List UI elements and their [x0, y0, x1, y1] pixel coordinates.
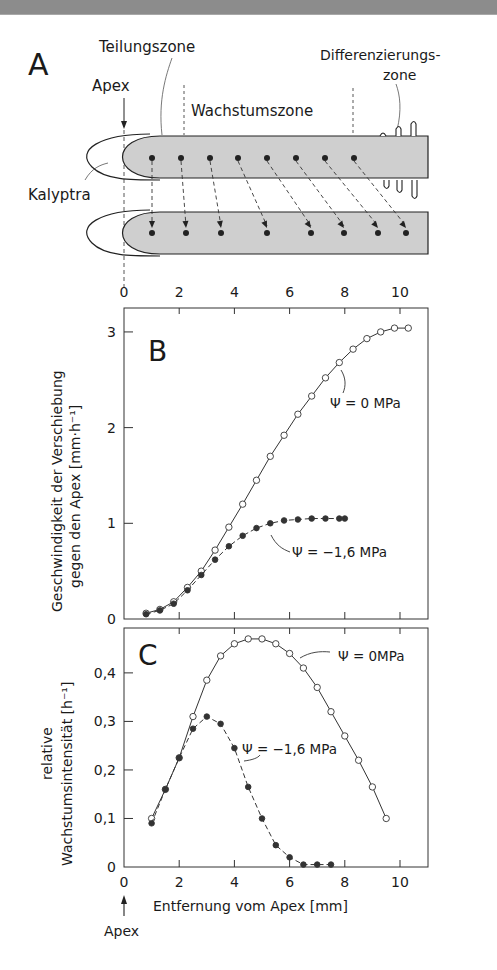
data-point [295, 517, 301, 523]
data-point [171, 601, 177, 607]
panel-a-tick: 8 [340, 284, 349, 300]
data-point [350, 346, 356, 352]
data-point [245, 784, 251, 790]
differentiation-zone-label-2: zone [383, 67, 416, 83]
x-tick-label: 2 [175, 874, 184, 890]
data-point [254, 525, 260, 531]
data-point [267, 453, 273, 459]
data-point [232, 745, 238, 751]
data-point [198, 572, 204, 578]
data-point [204, 677, 210, 683]
differentiation-zone-label-1: Differenzierungs- [320, 47, 440, 63]
y-tick-label: 0 [107, 859, 116, 875]
panel-b-ylabel-1: Geschwindigkeit der Verschiebung [49, 370, 65, 612]
data-point [391, 325, 397, 331]
data-point [281, 518, 287, 524]
panel-a-tick: 4 [230, 284, 239, 300]
panel-a-tick: 2 [175, 284, 184, 300]
panel-c-legend-psi0: Ψ = 0MPa [338, 648, 405, 664]
panel-a-axis: 0246810 [120, 284, 409, 300]
panel-c-ylabel-2: Wachstumsintensität [h⁻¹] [59, 682, 75, 866]
apex-label-top: Apex [92, 77, 130, 95]
y-tick-label: 0,2 [94, 762, 116, 778]
data-point [328, 862, 334, 868]
data-point [364, 335, 370, 341]
data-point [163, 787, 169, 793]
data-point [226, 524, 232, 530]
data-point [259, 636, 265, 642]
panel-b-legend-psi0: Ψ = 0 MPa [330, 395, 401, 411]
panel-b-ylabel-2: gegen den Apex [mm·h⁻¹] [67, 405, 83, 588]
y-tick-label: 0,1 [94, 810, 116, 826]
panel-c: 00,10,20,30,40246810 C Ψ = 0MPa Ψ = −1,6… [39, 628, 428, 890]
data-point [336, 516, 342, 522]
data-point [259, 816, 265, 822]
data-point [226, 543, 232, 549]
data-point [212, 557, 218, 563]
apex-arrow-icon [121, 895, 127, 904]
y-tick-label: 0,4 [94, 665, 116, 681]
panel-a: A Teilungszone Differenzierungs- zone Ap… [28, 38, 440, 300]
data-point [301, 862, 307, 868]
data-point [309, 516, 315, 522]
data-point [267, 521, 273, 527]
data-point [143, 611, 149, 617]
series-line [146, 328, 408, 613]
data-point [204, 714, 210, 720]
data-point [295, 411, 301, 417]
figure: A Teilungszone Differenzierungs- zone Ap… [0, 0, 497, 970]
x-tick-label: 0 [120, 874, 129, 890]
panel-c-label: C [138, 639, 158, 672]
data-point [190, 726, 196, 732]
data-point [383, 815, 389, 821]
panel-a-tick: 0 [120, 284, 129, 300]
division-zone-label: Teilungszone [98, 38, 195, 56]
data-point [157, 608, 163, 614]
panel-a-tick: 10 [391, 284, 409, 300]
data-point [281, 432, 287, 438]
y-tick-label: 2 [107, 420, 116, 436]
data-point [273, 641, 279, 647]
panel-a-label: A [28, 47, 49, 82]
y-tick-label: 0,3 [94, 713, 116, 729]
calyptra-label: Kalyptra [28, 186, 91, 204]
panel-b-legend-psi-16: Ψ = −1,6 MPa [292, 544, 387, 560]
x-axis-title: Entfernung vom Apex [mm] [153, 898, 348, 914]
data-point [300, 665, 306, 671]
x-tick-label: 6 [285, 874, 294, 890]
y-tick-label: 3 [107, 324, 116, 340]
data-point [185, 587, 191, 593]
data-point [342, 516, 348, 522]
data-point [239, 501, 245, 507]
data-point [322, 375, 328, 381]
data-point [336, 359, 342, 365]
y-tick-label: 1 [107, 515, 116, 531]
data-point [212, 547, 218, 553]
growth-zone-label: Wachstumszone [191, 102, 313, 120]
data-point [273, 842, 279, 848]
data-point [328, 709, 334, 715]
data-point [369, 784, 375, 790]
data-point [149, 821, 155, 827]
data-point [176, 755, 182, 761]
data-point [308, 393, 314, 399]
panel-b-label: B [148, 335, 167, 368]
panel-c-ylabel-1: relative [39, 727, 55, 780]
bottom-axis-labels: Entfernung vom Apex [mm] Apex [104, 895, 348, 939]
data-point [240, 533, 246, 539]
data-point [190, 713, 196, 719]
series-line [152, 717, 331, 865]
panel-c-legend-psi-16: Ψ = −1,6 MPa [242, 741, 337, 757]
data-point [217, 653, 223, 659]
apex-label-bottom: Apex [104, 923, 139, 939]
data-point [245, 636, 251, 642]
x-tick-label: 10 [391, 874, 409, 890]
y-tick-label: 0 [107, 611, 116, 627]
data-point [286, 650, 292, 656]
data-point [314, 684, 320, 690]
data-point [342, 733, 348, 739]
data-point [314, 862, 320, 868]
series-line [152, 639, 387, 819]
panel-b: 0123 B Ψ = 0 MPa Ψ = −1,6 MPa Geschwindi… [49, 308, 428, 627]
x-tick-label: 4 [230, 874, 239, 890]
